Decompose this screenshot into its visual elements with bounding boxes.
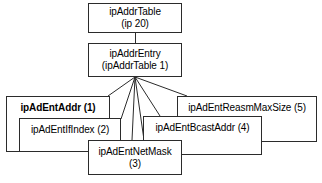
node-ipaddrtable-line1: ipAddrTable [109, 6, 161, 18]
node-ipaddrtable-line2: (ip 20) [121, 18, 149, 30]
node-ipaddrtable: ipAddrTable (ip 20) [88, 3, 182, 33]
node-ipadentnetmask: ipAdEntNetMask (3) [88, 140, 182, 175]
node-ipadentreasmmaxsize-label: ipAdEntReasmMaxSize (5) [188, 102, 306, 114]
edge-entry-bcast [135, 77, 160, 116]
node-ipadentaddr-label: ipAdEntAddr (1) [20, 102, 95, 114]
node-ipadentifindex-label: ipAdEntIfIndex (2) [31, 124, 109, 136]
mib-tree-diagram: ipAddrTable (ip 20) ipAddrEntry (ipAddrT… [0, 0, 322, 183]
node-ipaddrentry-line1: ipAddrEntry [109, 48, 160, 60]
edge-entry-netmask [132, 77, 135, 140]
edge-entry-addr [108, 77, 135, 96]
node-ipadentnetmask-line2: (3) [129, 158, 141, 170]
node-ipadentbcastaddr-label: ipAdEntBcastAddr (4) [155, 122, 249, 134]
node-ipadentnetmask-line1: ipAdEntNetMask [98, 146, 171, 158]
node-ipaddrentry-line2: (ipAddrTable 1) [102, 60, 168, 72]
edge-entry-reasm [135, 77, 187, 96]
node-ipaddrentry: ipAddrEntry (ipAddrTable 1) [88, 43, 182, 77]
